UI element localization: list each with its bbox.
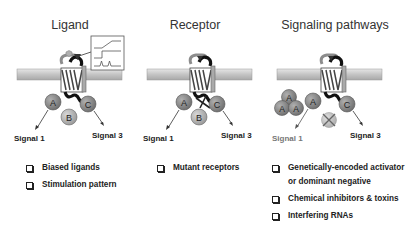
- mutant-receptor-icon: [190, 55, 217, 102]
- effector-a-cluster: A A A: [275, 90, 304, 116]
- stimulation-pattern-inset: [91, 36, 124, 70]
- svg-text:A: A: [293, 104, 299, 114]
- checkbox-icon: [272, 165, 279, 172]
- ligand-hexagon-icon: [66, 51, 72, 57]
- diagram-scene: A B C Signal 1 Signal 3 A B C Signal 1 S…: [0, 0, 405, 160]
- checkbox-icon: [26, 182, 33, 189]
- signal-1-label-faded: Signal 1: [272, 134, 303, 143]
- svg-text:A: A: [279, 104, 285, 114]
- list-item: Genetically-encoded activator: [272, 163, 405, 173]
- signal-3-label: Signal 3: [92, 131, 123, 140]
- panel-signaling-diagram: A A A A C Signal 1 Signal 3: [272, 55, 382, 143]
- gpcr-receptor-icon: [321, 55, 348, 102]
- signal-1-label: Signal 1: [14, 134, 45, 143]
- signal-1-label: Signal 1: [143, 134, 174, 143]
- gpcr-receptor-icon: [61, 55, 88, 102]
- svg-text:A: A: [286, 93, 292, 103]
- checkbox-icon: [157, 165, 164, 172]
- signaling-approaches-list: Genetically-encoded activator or dominan…: [272, 163, 405, 228]
- effector-b-label: B: [66, 113, 72, 123]
- effector-a-label: A: [310, 97, 316, 107]
- inhibited-effector-b-icon: [322, 113, 337, 128]
- panel-receptor-diagram: A B C Signal 1 Signal 3: [143, 55, 252, 143]
- panel-ligand-diagram: A B C Signal 1 Signal 3: [14, 36, 124, 143]
- effector-c-label: C: [344, 100, 351, 110]
- list-item: Stimulation pattern: [26, 180, 156, 190]
- signal-3-label: Signal 3: [350, 131, 381, 140]
- checkbox-icon: [272, 196, 279, 203]
- list-item: Mutant receptors: [157, 163, 267, 173]
- list-item: Chemical inhibitors & toxins: [272, 194, 405, 204]
- effector-a-label: A: [181, 98, 187, 108]
- list-item-continuation: or dominant negative: [272, 177, 405, 187]
- signal-3-label: Signal 3: [221, 131, 252, 140]
- list-item: Interfering RNAs: [272, 211, 405, 221]
- ligand-approaches-list: Biased ligands Stimulation pattern: [26, 163, 156, 197]
- receptor-approaches-list: Mutant receptors: [157, 163, 267, 180]
- effector-c-label: C: [85, 100, 92, 110]
- effector-a-label: A: [50, 98, 56, 108]
- effector-b-label: B: [196, 113, 202, 123]
- checkbox-icon: [26, 165, 33, 172]
- list-item: Biased ligands: [26, 163, 156, 173]
- effector-c-label: C: [214, 100, 221, 110]
- checkbox-icon: [272, 213, 279, 220]
